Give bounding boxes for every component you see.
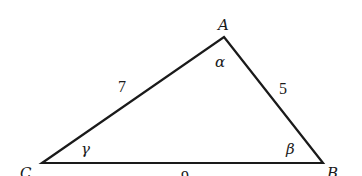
angle-label-gamma: γ [81, 140, 90, 158]
side-label-cb: 9 [181, 168, 189, 176]
side-label-ab: 5 [279, 80, 287, 97]
vertex-label-a: A [216, 16, 229, 34]
vertex-label-b: B [326, 164, 338, 176]
triangle-diagram: A B C α β γ 7 5 9 [0, 0, 362, 176]
angle-label-beta: β [285, 140, 295, 158]
angle-label-alpha: α [215, 53, 225, 71]
vertex-label-c: C [20, 164, 32, 176]
side-label-ca: 7 [118, 78, 126, 95]
